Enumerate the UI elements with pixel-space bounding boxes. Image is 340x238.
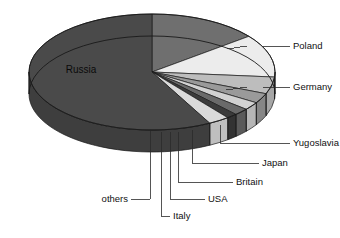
slice-label-japan: Japan [262,157,288,168]
slice-label-russia: Russia [66,64,97,75]
slice-label-germany: Germany [293,81,332,92]
slice-label-yugoslavia: Yugoslavia [293,137,340,148]
pie-side-wall-italy [228,114,236,139]
pie-chart-svg: Poland Germany Yugoslavia Japan Britain … [0,0,340,238]
slice-label-britain: Britain [236,176,263,187]
slice-label-poland: Poland [293,40,323,51]
slice-label-others: others [102,193,129,204]
slice-label-italy: Italy [173,210,191,221]
slice-label-usa: USA [208,193,228,204]
pie-chart-figure: Poland Germany Yugoslavia Japan Britain … [0,0,340,238]
